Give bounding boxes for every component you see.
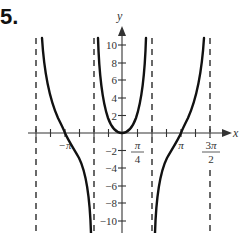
graph: x y 10 8 6 4 2 −2 −4 −6 −8 −10 −π π 4 π … (0, 0, 240, 233)
svg-text:4: 4 (135, 153, 141, 165)
y-tick-label: 2 (112, 110, 118, 122)
x-axis-label: x (232, 126, 239, 140)
function-curves (42, 38, 204, 233)
svg-text:2: 2 (208, 153, 214, 165)
asymptotes (36, 38, 210, 233)
curve-left-branch (42, 38, 91, 233)
x-tick-label-pi-over-4: π 4 (129, 138, 145, 166)
svg-text:3π: 3π (205, 139, 217, 151)
x-tick-label-3pi-over-2: 3π 2 (200, 138, 222, 166)
y-tick-label: −10 (100, 215, 118, 227)
y-tick-label: −4 (105, 162, 117, 174)
y-tick-label: −6 (105, 180, 117, 192)
y-axis-label: y (116, 9, 123, 23)
y-tick-label: 6 (112, 74, 118, 86)
y-tick-label: −8 (105, 197, 117, 209)
y-tick-label: −2 (105, 145, 117, 157)
x-tick-label-pi: π (178, 139, 184, 151)
y-axis-arrow-icon (118, 26, 126, 36)
svg-text:π: π (135, 139, 141, 151)
y-tick-label: 10 (106, 39, 118, 51)
curve-right-branch (155, 38, 204, 233)
y-tick-label: 4 (112, 92, 118, 104)
x-axis-arrow-icon (222, 129, 232, 137)
y-tick-label: 8 (112, 57, 118, 69)
